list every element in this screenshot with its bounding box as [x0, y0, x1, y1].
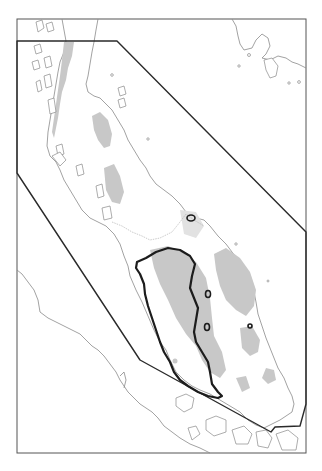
range-patch-east	[248, 324, 252, 328]
range-patch-coastal	[173, 359, 178, 364]
peninsula-coastline	[47, 19, 294, 428]
highland-south-1	[262, 368, 276, 384]
highland-east	[214, 248, 256, 316]
highland-central-north	[104, 164, 124, 204]
east-coast-islands	[111, 74, 269, 282]
southern-islands	[176, 394, 298, 450]
highland-isthmus	[92, 112, 112, 148]
highland-main-range	[150, 246, 226, 378]
peninsula-landmass	[47, 19, 294, 428]
highland-southeast	[240, 326, 260, 356]
sumatra-inlet	[120, 372, 126, 388]
island-phu-quoc	[264, 58, 278, 78]
highland-south-2	[236, 376, 250, 392]
distribution-map	[0, 0, 322, 471]
